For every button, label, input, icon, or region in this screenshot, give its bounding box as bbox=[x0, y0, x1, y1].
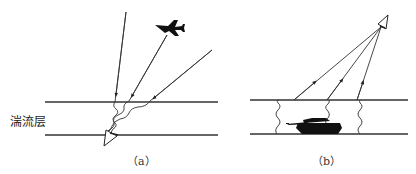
aircraft-icon bbox=[155, 20, 185, 36]
rays-b bbox=[294, 27, 381, 100]
panel-a bbox=[45, 12, 218, 146]
ray-1-a bbox=[111, 12, 126, 135]
panel-a-caption: （a） bbox=[127, 152, 156, 168]
tank-icon bbox=[286, 118, 342, 134]
ray-2-a bbox=[107, 35, 167, 135]
ray-3-a bbox=[108, 50, 212, 132]
panel-b bbox=[250, 15, 408, 134]
receiver-icon-b bbox=[378, 15, 388, 29]
diagram-canvas bbox=[0, 0, 416, 174]
receiver-icon-a bbox=[104, 130, 118, 146]
panel-b-caption: （b） bbox=[312, 152, 341, 168]
turbulence-layer-label: 湍流层 bbox=[10, 112, 46, 129]
